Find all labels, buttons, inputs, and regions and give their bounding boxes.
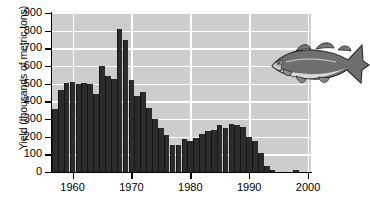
bar: [199, 134, 205, 172]
y-axis-tick-label: 800: [12, 24, 42, 36]
bar: [81, 83, 87, 172]
y-axis-tick-label: 500: [12, 77, 42, 89]
bar: [193, 138, 199, 172]
bar: [187, 141, 193, 172]
y-axis-tick: [45, 119, 51, 120]
y-axis-tick-label: 300: [12, 112, 42, 124]
bar: [52, 109, 58, 172]
atlantic-cod-illustration: [266, 31, 370, 87]
x-axis-tick-label: 2000: [288, 181, 328, 193]
x-axis-tick: [73, 173, 74, 179]
bar: [134, 96, 140, 172]
bar: [152, 119, 158, 172]
bar: [217, 125, 223, 172]
bar: [164, 135, 170, 172]
x-axis-tick: [190, 173, 191, 179]
bar: [234, 125, 240, 172]
bar: [258, 153, 264, 172]
x-axis-tick: [131, 173, 132, 179]
bar: [111, 79, 117, 172]
bar: [176, 145, 182, 172]
x-axis-tick-label: 1960: [53, 181, 93, 193]
x-axis-line: [51, 172, 312, 173]
bar: [93, 94, 99, 172]
bar: [87, 84, 93, 172]
gridline-horizontal: [52, 13, 311, 14]
y-axis-tick: [45, 154, 51, 155]
y-axis-tick: [45, 137, 51, 138]
bar: [64, 83, 70, 172]
bar: [123, 40, 129, 173]
y-axis-tick-label: 900: [12, 6, 42, 18]
bar: [158, 128, 164, 172]
bar: [76, 84, 82, 172]
y-axis-tick: [45, 172, 51, 173]
x-axis-tick-label: 1980: [170, 181, 210, 193]
bar: [99, 66, 105, 172]
y-axis-tick: [45, 84, 51, 85]
y-axis-tick-label: 600: [12, 59, 42, 71]
bar: [140, 92, 146, 172]
y-axis-tick-label: 700: [12, 41, 42, 53]
bar: [229, 124, 235, 172]
bar: [252, 141, 258, 172]
x-axis-tick: [249, 173, 250, 179]
y-axis-tick-label: 400: [12, 94, 42, 106]
bar: [205, 131, 211, 172]
bar: [129, 80, 135, 172]
bar: [105, 76, 111, 172]
bar: [240, 127, 246, 172]
y-axis-line: [51, 12, 52, 173]
plot-area: [52, 13, 311, 172]
bar: [58, 90, 64, 172]
x-axis-tick-label: 1970: [111, 181, 151, 193]
bar: [182, 139, 188, 172]
x-axis-tick: [308, 173, 309, 179]
x-axis-tick-label: 1990: [229, 181, 269, 193]
y-axis-tick: [45, 13, 51, 14]
y-axis-tick: [45, 66, 51, 67]
y-axis-tick: [45, 101, 51, 102]
bar: [146, 108, 152, 172]
bar: [246, 137, 252, 172]
bar: [170, 145, 176, 172]
bar: [70, 82, 76, 172]
bar: [117, 29, 123, 172]
bar: [211, 130, 217, 172]
y-axis-tick: [45, 48, 51, 49]
y-axis-tick: [45, 31, 51, 32]
y-axis-tick-label: 0: [12, 165, 42, 177]
y-axis-tick-label: 200: [12, 130, 42, 142]
bar: [223, 128, 229, 172]
y-axis-tick-label: 100: [12, 147, 42, 159]
